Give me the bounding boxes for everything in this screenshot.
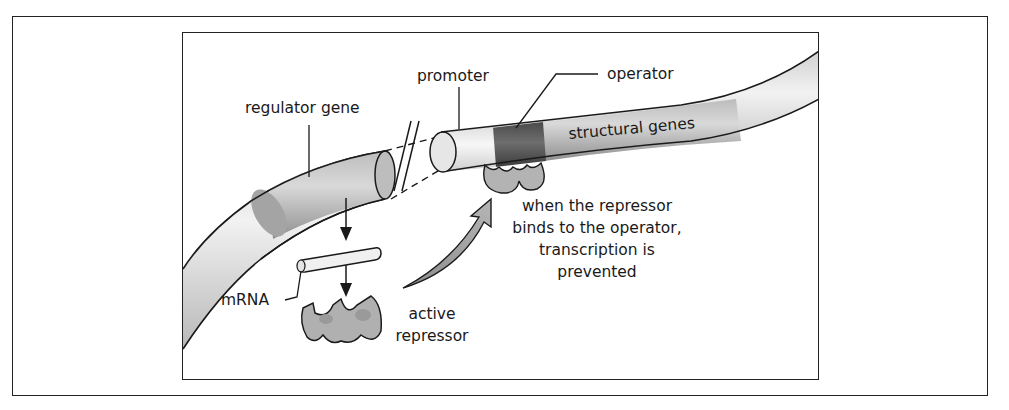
caption-line2: binds to the operator, — [512, 219, 681, 237]
active-repressor-label-line2: repressor — [396, 327, 470, 345]
bound-repressor — [484, 163, 544, 193]
curved-arrow-icon — [403, 199, 491, 288]
promoter-end-cap — [430, 132, 456, 172]
mrna-label: mRNA — [221, 291, 269, 309]
break-mark-icon — [394, 121, 419, 191]
caption-line4: prevented — [557, 263, 636, 281]
down-arrow-icon — [340, 263, 352, 297]
caption-line1: when the repressor — [522, 197, 673, 215]
gene-regulation-diagram: regulator gene promoter operator structu… — [183, 33, 819, 380]
diagram-frame: regulator gene promoter operator structu… — [182, 32, 819, 380]
active-repressor — [302, 296, 382, 343]
mrna-molecule — [285, 248, 381, 300]
active-repressor-label-line1: active — [408, 305, 455, 323]
promoter-label: promoter — [417, 67, 490, 85]
regulator-gene-label: regulator gene — [245, 99, 360, 117]
operator-label: operator — [607, 65, 674, 83]
caption-line3: transcription is — [539, 241, 655, 259]
